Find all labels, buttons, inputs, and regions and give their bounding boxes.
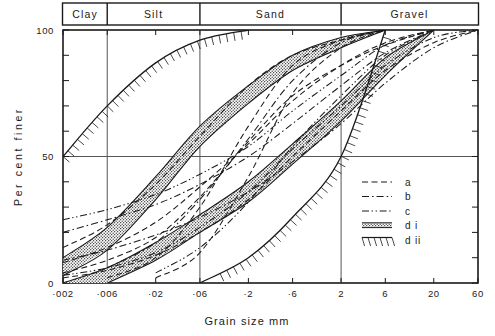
x-tick-label: ·02: [148, 288, 164, 299]
legend-label-c: c: [405, 206, 411, 217]
legend-label-a: a: [405, 177, 411, 188]
grain-size-distribution-figure: ClaySiltSandGravel ·002·006·02·06·2·6262…: [0, 0, 495, 336]
x-tick-label: ·6: [288, 288, 298, 299]
chart-canvas: ClaySiltSandGravel ·002·006·02·06·2·6262…: [0, 0, 495, 336]
y-tick-label: 50: [42, 151, 54, 162]
legend-swatch-stipple: [362, 223, 392, 228]
x-tick-label: ·2: [244, 288, 254, 299]
legend-label-dii: d ii: [405, 235, 421, 246]
x-tick-label: 60: [472, 288, 484, 299]
legend-label-b: b: [405, 191, 411, 202]
y-tick-label: 100: [36, 25, 54, 36]
x-tick-label: 6: [382, 288, 388, 299]
x-tick-label: ·006: [97, 288, 118, 299]
x-tick-label: ·06: [192, 288, 208, 299]
x-axis-tick-labels: ·002·006·02·06·2·6262060: [52, 288, 484, 299]
classification-label-silt: Silt: [144, 8, 163, 20]
y-tick-label: 0: [48, 278, 54, 289]
x-tick-label: 2: [338, 288, 344, 299]
legend-label-di: d i: [405, 220, 418, 231]
x-tick-label: 20: [428, 288, 440, 299]
y-axis-label-text: Per cent finer: [12, 107, 24, 206]
x-axis-label: Grain size mm: [204, 315, 289, 327]
y-axis-label: Per cent finer: [12, 107, 24, 206]
classification-label-clay: Clay: [72, 8, 98, 20]
x-tick-label: ·002: [52, 288, 73, 299]
soil-classification-header: ClaySiltSandGravel: [63, 3, 479, 25]
classification-label-sand: Sand: [256, 8, 285, 20]
y-axis-tick-labels: 050100: [36, 25, 54, 289]
classification-label-gravel: Gravel: [390, 8, 428, 20]
